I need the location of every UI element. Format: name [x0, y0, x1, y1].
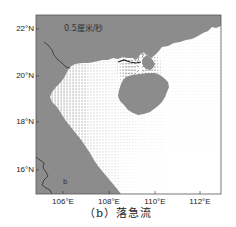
- lat-tick-22n: 22°N: [2, 24, 34, 33]
- lat-tick-16n: 16°N: [2, 165, 34, 174]
- lat-tick-20n: 20°N: [2, 71, 34, 80]
- figure-caption: （b）落急流: [0, 204, 236, 220]
- current-vector-map: [0, 0, 236, 227]
- scale-annotation: 0.5厘米/秒: [64, 22, 103, 33]
- panel-letter-label: b: [63, 178, 67, 186]
- lat-tick-18n: 18°N: [2, 117, 34, 126]
